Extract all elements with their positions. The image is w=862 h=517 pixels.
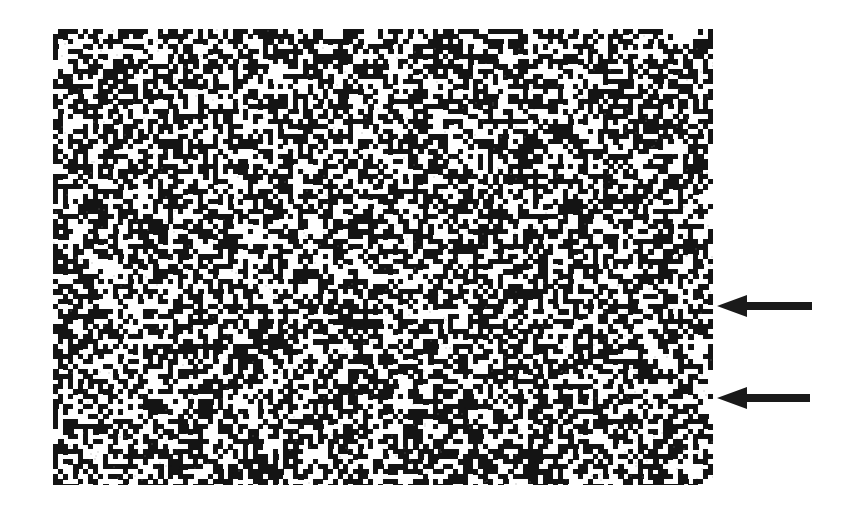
lower-annotation-arrow-icon: [717, 386, 810, 410]
upper-annotation-arrow-icon: [717, 294, 812, 318]
noise-pattern-canvas: [53, 29, 713, 485]
figure-root: [0, 0, 862, 517]
noise-panel: [53, 29, 713, 485]
